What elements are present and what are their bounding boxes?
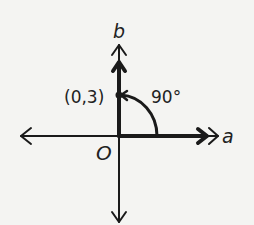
point-label: (0,3) (64, 87, 104, 107)
labels-layer: b a O (0,3) 90° (0, 0, 254, 225)
vertical-axis-label: b (113, 20, 125, 42)
angle-label: 90° (151, 87, 181, 107)
rotation-diagram: b a O (0,3) 90° (0, 0, 254, 225)
horizontal-axis-label: a (222, 125, 234, 147)
origin-label: O (96, 141, 112, 165)
